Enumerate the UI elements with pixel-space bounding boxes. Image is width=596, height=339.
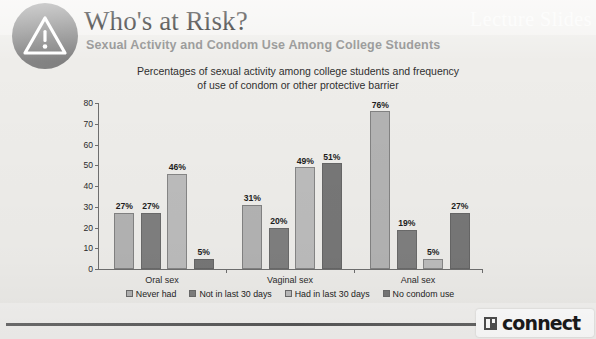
legend-swatch-icon [383, 290, 390, 297]
legend-item[interactable]: Had in last 30 days [285, 289, 370, 299]
bar-value-label: 20% [270, 216, 287, 226]
legend-swatch-icon [126, 290, 133, 297]
legend-label: No condom use [393, 289, 455, 299]
slide-canvas: Lecture Slides Who's at Risk? Sexual Act… [0, 0, 596, 339]
chart-bar: 5% [194, 259, 214, 269]
y-axis-tick-mark [95, 186, 99, 187]
chart-legend: Never hadNot in last 30 daysHad in last … [98, 287, 482, 300]
chart-bar: 20% [269, 228, 289, 270]
chart-bar: 5% [423, 259, 443, 269]
y-axis-tick-label: 50 [67, 160, 98, 170]
bar-chart-plot: 0102030405060708027%27%46%5%Oral sex31%2… [98, 103, 482, 269]
chart-bar: 76% [370, 111, 390, 269]
page-subtitle: Sexual Activity and Condom Use Among Col… [86, 38, 440, 52]
chart-title: Percentages of sexual activity among col… [88, 64, 508, 92]
legend-item[interactable]: No condom use [383, 289, 455, 299]
legend-swatch-icon [285, 290, 292, 297]
ghost-watermark-text: Lecture Slides [377, 4, 592, 36]
chart-bar: 31% [242, 205, 262, 269]
x-axis-group-label: Anal sex [401, 275, 436, 285]
y-axis-tick-mark [95, 145, 99, 146]
y-axis-tick-label: 0 [67, 264, 98, 274]
legend-label: Never had [136, 289, 177, 299]
connect-logo-label: connect [502, 312, 580, 334]
chart-bar: 27% [114, 213, 134, 269]
bar-value-label: 19% [398, 218, 415, 228]
bar-value-label: 27% [142, 201, 159, 211]
page-title: Who's at Risk? [84, 6, 248, 37]
x-axis-group-label: Oral sex [145, 275, 179, 285]
chart-bar: 27% [450, 213, 470, 269]
y-axis-tick-mark [95, 228, 99, 229]
chart-bar: 49% [295, 167, 315, 269]
bar-value-label: 31% [244, 193, 261, 203]
connect-logo-icon [484, 317, 497, 330]
bar-value-label: 5% [198, 247, 210, 257]
legend-item[interactable]: Never had [126, 289, 177, 299]
y-axis-tick-mark [95, 124, 99, 125]
bar-value-label: 51% [323, 152, 340, 162]
x-axis-tick-mark [226, 269, 227, 273]
x-axis-tick-mark [354, 269, 355, 273]
legend-label: Not in last 30 days [199, 289, 271, 299]
y-axis-tick-label: 80 [67, 98, 98, 108]
y-axis-tick-label: 70 [67, 119, 98, 129]
y-axis-tick-mark [95, 269, 99, 270]
legend-label: Had in last 30 days [295, 289, 370, 299]
legend-swatch-icon [189, 290, 196, 297]
chart-bar: 27% [141, 213, 161, 269]
y-axis-tick-mark [95, 165, 99, 166]
y-axis-tick-mark [95, 103, 99, 104]
legend-item[interactable]: Not in last 30 days [189, 289, 271, 299]
chart-bar: 19% [397, 230, 417, 269]
bar-value-label: 76% [372, 100, 389, 110]
x-axis-tick-mark [482, 269, 483, 273]
connect-logo[interactable]: connect [476, 309, 594, 337]
chart-bar: 51% [322, 163, 342, 269]
y-axis-tick-label: 20 [67, 223, 98, 233]
bar-value-label: 27% [451, 201, 468, 211]
warning-triangle-icon [12, 3, 78, 69]
y-axis-tick-label: 10 [67, 243, 98, 253]
y-axis-tick-label: 30 [67, 202, 98, 212]
x-axis-group-label: Vaginal sex [267, 275, 313, 285]
y-axis-tick-label: 40 [67, 181, 98, 191]
y-axis-tick-mark [95, 207, 99, 208]
bar-value-label: 5% [427, 247, 439, 257]
bar-value-label: 49% [297, 156, 314, 166]
chart-title-line-1: Percentages of sexual activity among col… [88, 64, 508, 78]
chart-title-line-2: of use of condom or other protective bar… [88, 78, 508, 92]
bar-value-label: 27% [116, 201, 133, 211]
y-axis-tick-mark [95, 248, 99, 249]
y-axis-tick-label: 60 [67, 140, 98, 150]
y-axis [98, 103, 99, 269]
x-axis [98, 269, 482, 270]
chart-bar: 46% [167, 174, 187, 269]
bar-value-label: 46% [169, 162, 186, 172]
